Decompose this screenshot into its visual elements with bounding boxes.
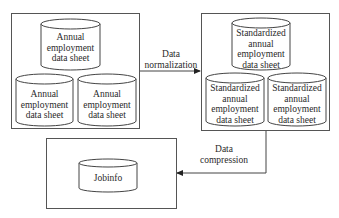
table-label-line: annual — [205, 94, 265, 105]
table-label-line: Standardized — [231, 28, 291, 39]
table-label-line: Annual — [15, 89, 74, 100]
table-label-line: Standardized — [205, 83, 265, 94]
table-label-line: annual — [267, 94, 327, 105]
table-label-line: data sheet — [15, 110, 74, 121]
edge-label-line: compression — [186, 155, 262, 166]
table-label-line: employment — [40, 43, 101, 54]
normalized-table-1: Standardized annual employment data shee… — [231, 17, 291, 71]
table-label-line: Annual — [77, 89, 137, 100]
jobinfo-table: Jobinfo — [78, 158, 138, 193]
table-label-line: data sheet — [77, 110, 137, 121]
table-label-line: employment — [205, 104, 265, 115]
normalization-label: Data normalization — [140, 49, 202, 71]
table-label-line: employment — [231, 49, 291, 60]
table-label-line: data sheet — [205, 115, 265, 126]
table-label-line: annual — [231, 39, 291, 50]
compression-label: Data compression — [186, 144, 262, 166]
table-label-line: Jobinfo — [78, 173, 138, 184]
table-label-line: data sheet — [40, 53, 101, 64]
table-label-line: employment — [267, 104, 327, 115]
table-label-line: Standardized — [267, 83, 327, 94]
source-table-1: Annual employment data sheet — [40, 18, 101, 71]
table-label-line: employment — [15, 100, 74, 111]
source-table-2: Annual employment data sheet — [15, 73, 74, 127]
table-label-line: data sheet — [231, 60, 291, 71]
table-label-line: data sheet — [267, 115, 327, 126]
source-table-3: Annual employment data sheet — [77, 73, 137, 127]
table-label-line: employment — [77, 100, 137, 111]
normalized-table-2: Standardized annual employment data shee… — [205, 72, 265, 127]
normalized-table-3: Standardized annual employment data shee… — [267, 72, 327, 127]
table-label-line: Annual — [40, 32, 101, 43]
edge-label-line: Data — [186, 144, 262, 155]
edge-label-line: normalization — [140, 60, 202, 71]
edge-label-line: Data — [140, 49, 202, 60]
